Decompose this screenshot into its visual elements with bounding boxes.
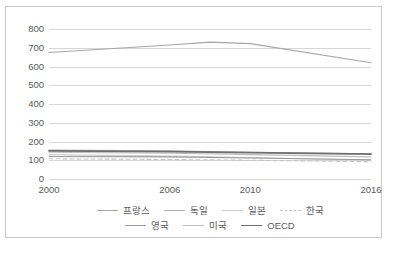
x-tick-label: 2006 bbox=[159, 185, 180, 195]
plot-area bbox=[49, 29, 371, 179]
legend-row-2: 영국미국OECD bbox=[49, 218, 371, 233]
legend-label: 한국 bbox=[306, 206, 324, 216]
legend-label: 프랑스 bbox=[123, 206, 150, 216]
chart-legend: 프랑스독일일본한국 영국미국OECD bbox=[49, 203, 371, 233]
gridline bbox=[49, 179, 371, 180]
y-tick-label: 200 bbox=[28, 137, 44, 147]
legend-swatch bbox=[183, 225, 204, 226]
legend-label: 미국 bbox=[209, 221, 227, 231]
legend-label: 영국 bbox=[151, 221, 169, 231]
legend-label: OECD bbox=[267, 221, 294, 231]
legend-item[interactable]: 일본 bbox=[222, 206, 266, 216]
y-axis: 0100200300400500600700800 bbox=[6, 29, 44, 179]
legend-item[interactable]: OECD bbox=[241, 221, 294, 231]
x-tick-label: 2000 bbox=[38, 185, 59, 195]
y-tick-label: 700 bbox=[28, 43, 44, 53]
y-tick-label: 800 bbox=[28, 24, 44, 34]
series-layer bbox=[49, 29, 371, 179]
legend-item[interactable]: 영국 bbox=[125, 221, 169, 231]
series-line bbox=[49, 157, 371, 160]
x-tick-label: 2010 bbox=[240, 185, 261, 195]
series-line bbox=[49, 42, 371, 63]
legend-item[interactable]: 한국 bbox=[280, 206, 324, 216]
legend-swatch bbox=[222, 210, 243, 211]
legend-swatch bbox=[241, 225, 262, 226]
legend-swatch bbox=[164, 210, 185, 211]
legend-swatch bbox=[280, 210, 301, 211]
y-tick-label: 600 bbox=[28, 62, 44, 72]
legend-item[interactable]: 미국 bbox=[183, 221, 227, 231]
legend-row-1: 프랑스독일일본한국 bbox=[49, 203, 371, 218]
y-tick-label: 500 bbox=[28, 80, 44, 90]
legend-label: 독일 bbox=[190, 206, 208, 216]
x-tick-label: 2016 bbox=[360, 185, 381, 195]
x-axis: 2000200620102016 bbox=[49, 185, 371, 199]
legend-item[interactable]: 독일 bbox=[164, 206, 208, 216]
legend-label: 일본 bbox=[248, 206, 266, 216]
legend-swatch bbox=[97, 210, 118, 211]
y-tick-label: 400 bbox=[28, 99, 44, 109]
y-tick-label: 300 bbox=[28, 118, 44, 128]
chart-container: 0100200300400500600700800 20002006201020… bbox=[5, 6, 382, 238]
legend-item[interactable]: 프랑스 bbox=[97, 206, 150, 216]
y-tick-label: 100 bbox=[28, 155, 44, 165]
legend-swatch bbox=[125, 225, 146, 226]
y-tick-label: 0 bbox=[39, 174, 44, 184]
